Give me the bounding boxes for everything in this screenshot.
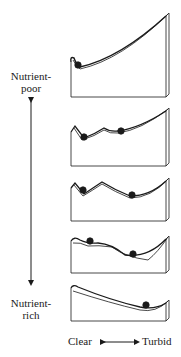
landscape-panel-4 <box>71 236 169 273</box>
ball-clear-state <box>75 62 81 68</box>
landscape-panel-2 <box>71 108 169 166</box>
landscape-panel-3 <box>71 178 169 221</box>
landscape-panel-5 <box>71 286 169 321</box>
ball-clear-state <box>80 187 86 193</box>
ball-clear-state <box>81 134 87 140</box>
landscape-panel-1 <box>71 13 169 97</box>
ball-turbid-state <box>129 192 135 198</box>
stability-landscape-diagram <box>0 0 181 357</box>
ball-clear-state <box>87 238 93 244</box>
ball-turbid-state <box>143 302 149 308</box>
ball-turbid-state <box>118 128 124 134</box>
ball-turbid-state <box>130 251 136 257</box>
